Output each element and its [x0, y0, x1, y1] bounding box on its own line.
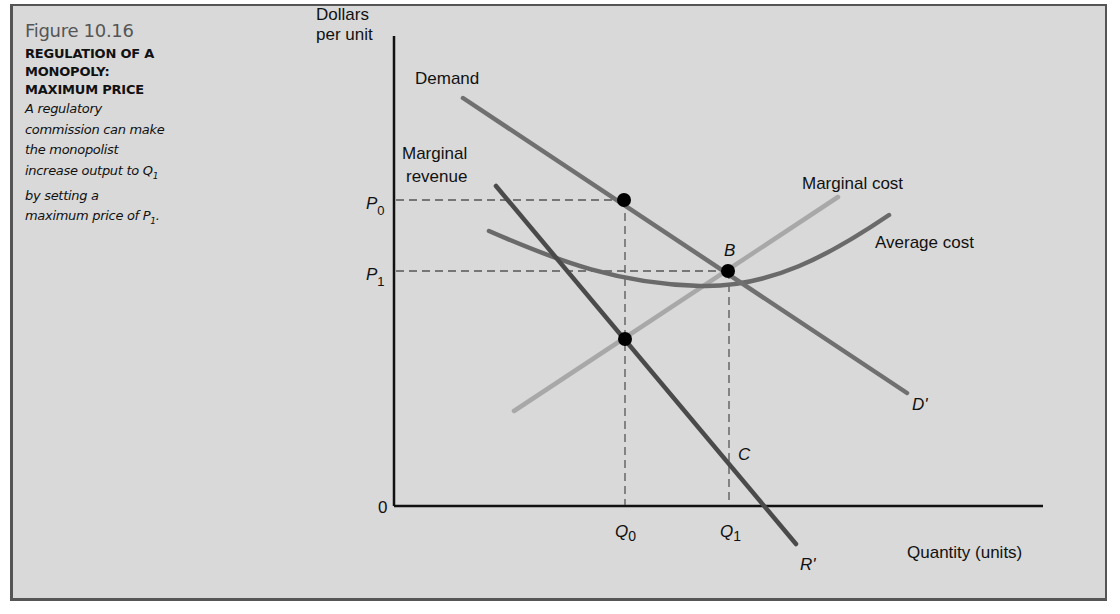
marginal-revenue-label-line1: Marginal: [402, 144, 467, 163]
origin-label: 0: [378, 498, 387, 517]
tick-sub: 0: [377, 203, 384, 218]
monopoly-price-point: [617, 193, 631, 207]
guide-lines: [396, 200, 729, 505]
demand-label: Demand: [415, 69, 479, 88]
y-tick-p1: P1: [366, 265, 385, 289]
marginal-revenue-label-line2: revenue: [406, 167, 467, 186]
marginal-cost-line: [514, 197, 838, 411]
tick-text: Q: [615, 522, 628, 541]
x-axis-label: Quantity (units): [907, 543, 1022, 562]
marginal-cost-label: Marginal cost: [802, 174, 903, 193]
marginal-revenue-line: [496, 186, 796, 544]
tick-sub: 1: [377, 274, 384, 289]
tick-text: P: [366, 194, 378, 213]
y-axis-label-line2: per unit: [316, 25, 373, 44]
chart-svg: Dollars per unit 0 Quantity (units) P0 P…: [0, 0, 1120, 614]
x-tick-q0: Q0: [615, 522, 636, 544]
point-c-label: C: [738, 445, 751, 464]
average-cost-label: Average cost: [875, 233, 974, 252]
y-tick-p0: P0: [366, 194, 385, 218]
tick-text: Q: [720, 522, 733, 541]
y-axis-label-line1: Dollars: [316, 5, 369, 24]
tick-sub: 1: [733, 528, 741, 544]
x-tick-q1: Q1: [720, 522, 741, 544]
demand-end-label: D': [912, 395, 928, 414]
point-b-label: B: [724, 241, 735, 260]
mr-mc-intersection-point: [618, 332, 632, 346]
marginal-revenue-end-label: R': [800, 555, 816, 574]
point-b: [721, 264, 735, 278]
tick-text: P: [366, 265, 378, 284]
tick-sub: 0: [628, 528, 636, 544]
